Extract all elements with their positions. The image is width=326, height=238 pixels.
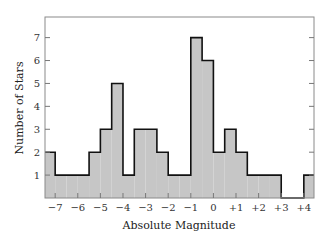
x-tick-label: −2 <box>161 202 176 213</box>
histogram-outline <box>45 38 314 198</box>
y-tick-label: 1 <box>34 170 40 181</box>
x-tick-label: +4 <box>296 202 311 213</box>
histogram-bin <box>55 175 66 198</box>
y-tick-label: 2 <box>34 147 40 158</box>
y-axis-label: Number of Stars <box>13 61 26 154</box>
x-tick-label: 0 <box>210 202 216 213</box>
histogram-bin <box>89 152 100 198</box>
x-tick-label: −4 <box>116 202 131 213</box>
y-tick-label: 7 <box>34 32 40 43</box>
histogram-bin <box>270 175 281 198</box>
histogram-bin <box>123 175 134 198</box>
histogram-bin <box>213 152 224 198</box>
y-tick-label: 4 <box>34 101 40 112</box>
histogram-chart: −7−6−5−4−3−2−10+1+2+3+4 1234567 Absolute… <box>0 0 326 238</box>
histogram-bars <box>45 38 314 198</box>
histogram-bin <box>304 175 314 198</box>
histogram-bin <box>168 175 179 198</box>
x-tick-label: −1 <box>183 202 198 213</box>
plot-frame <box>45 17 314 198</box>
y-tick-label: 3 <box>34 124 40 135</box>
histogram-bin <box>247 175 258 198</box>
histogram-bin <box>202 61 213 198</box>
histogram-bin <box>146 129 157 198</box>
x-tick-label: −7 <box>48 202 63 213</box>
histogram-bin <box>180 175 191 198</box>
histogram-bin <box>259 175 270 198</box>
x-tick-label: −6 <box>70 202 85 213</box>
histogram-bin <box>225 129 236 198</box>
y-tick-label: 6 <box>34 55 40 66</box>
x-axis-label: Absolute Magnitude <box>122 219 236 232</box>
histogram-bin <box>112 83 123 198</box>
x-tick-label: +1 <box>229 202 244 213</box>
histogram-bin <box>157 152 168 198</box>
histogram-bin <box>134 129 145 198</box>
histogram-bin <box>191 38 202 198</box>
histogram-bin <box>236 152 247 198</box>
x-tick-label: −3 <box>138 202 153 213</box>
x-tick-label: +3 <box>274 202 289 213</box>
histogram-bin <box>78 175 89 198</box>
histogram-bin <box>100 129 111 198</box>
y-axis-ticks: 1234567 <box>34 32 314 180</box>
x-tick-label: +2 <box>251 202 266 213</box>
y-tick-label: 5 <box>34 78 40 89</box>
histogram-bin <box>66 175 77 198</box>
x-tick-label: −5 <box>93 202 108 213</box>
